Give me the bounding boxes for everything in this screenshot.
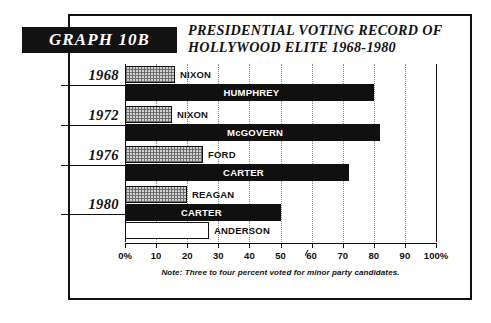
x-ticklabel-50: 50 [275,250,286,261]
x-tick-20 [187,243,188,248]
x-tick-60 [312,243,313,248]
x-tick-70 [343,243,344,248]
graph-number-label: GRAPH 10B [49,30,150,50]
x-tick-10 [156,243,157,248]
bar-label-reagan-1980: REAGAN [192,186,234,203]
x-tick-80 [374,243,375,248]
year-label-1972: 1972 [61,107,119,124]
bar-nixon-1968 [125,66,175,83]
year-label-1968: 1968 [61,67,119,84]
chart-note: Note: Three to four percent voted for mi… [125,268,436,277]
bar-anderson-1980 [125,222,209,239]
chart-title: PRESIDENTIAL VOTING RECORD OF HOLLYWOOD … [188,22,458,55]
x-ticklabel-70: 70 [337,250,348,261]
x-ticklabel-30: 30 [213,250,224,261]
x-tick-100 [436,243,437,248]
chart-title-line2: HOLLYWOOD ELITE 1968-1980 [188,39,458,56]
chart-title-line1: PRESIDENTIAL VOTING RECORD OF [188,22,443,38]
year-rule-1976 [61,165,125,166]
x-tick-50 [281,243,282,248]
bar-label-nixon-1968: NIXON [180,66,211,83]
plot-area: NIXONHUMPHREYNIXONMcGOVERNFORDCARTERREAG… [125,64,436,242]
year-label-1980: 1980 [61,196,119,213]
bar-label-carter-1980: CARTER [125,204,222,221]
bar-label-anderson-1980: ANDERSON [214,222,270,239]
year-rule-1968 [61,85,125,86]
gridline-100 [436,64,437,242]
x-ticklabel-90: 90 [400,250,411,261]
year-rule-1980 [61,214,125,215]
gridline-90 [405,64,406,242]
bar-label-nixon-1972: NIXON [177,106,208,123]
graph-figure: GRAPH 10B PRESIDENTIAL VOTING RECORD OF … [0,0,491,323]
bar-label-mcgovern-1972: McGOVERN [125,124,283,141]
x-tick-40 [249,243,250,248]
bar-nixon-1972 [125,106,172,123]
year-rule-1972 [61,125,125,126]
x-tick-90 [405,243,406,248]
bar-label-humphrey-1968: HUMPHREY [125,84,279,101]
tick-slash-artifact [305,250,312,259]
x-ticklabel-20: 20 [182,250,193,261]
x-ticklabel-80: 80 [369,250,380,261]
year-label-1976: 1976 [61,147,119,164]
x-ticklabel-0: 0% [118,250,132,261]
bar-reagan-1980 [125,186,187,203]
x-ticklabel-100: 100% [424,250,448,261]
x-tick-30 [218,243,219,248]
bar-ford-1976 [125,146,203,163]
x-ticklabel-10: 10 [151,250,162,261]
bar-label-ford-1976: FORD [208,146,236,163]
x-tick-0 [125,243,126,248]
x-ticklabel-40: 40 [244,250,255,261]
graph-number-badge: GRAPH 10B [22,27,177,53]
bar-label-carter-1976: CARTER [125,164,264,181]
